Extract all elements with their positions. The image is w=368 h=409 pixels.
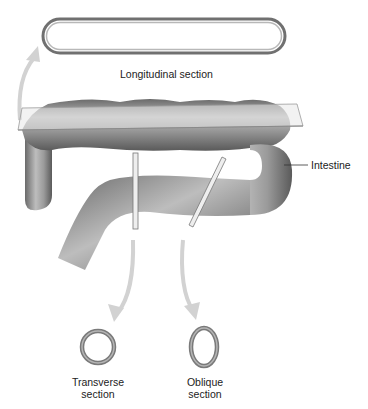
oblique-section-shape <box>191 328 217 366</box>
transverse-label-line2: section <box>68 388 128 400</box>
transverse-label-line1: Transverse <box>68 376 128 388</box>
oblique-label-line2: section <box>175 388 235 400</box>
transverse-section-shape <box>82 331 114 363</box>
longitudinal-plane <box>18 104 303 130</box>
transverse-section-label: Transverse section <box>68 376 128 400</box>
oblique-section-label: Oblique section <box>175 376 235 400</box>
intestine-label: Intestine <box>311 159 351 171</box>
transverse-plane <box>133 153 138 229</box>
diagram-canvas <box>0 0 368 409</box>
transverse-arrow <box>108 240 133 322</box>
oblique-label-line1: Oblique <box>175 376 235 388</box>
longitudinal-section-shape <box>43 19 285 53</box>
longitudinal-section-label: Longitudinal section <box>120 68 213 80</box>
oblique-arrow <box>182 240 200 320</box>
